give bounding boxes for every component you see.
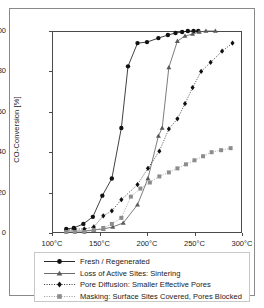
data-point [201,154,205,158]
data-point [91,215,95,219]
data-point [145,176,150,180]
y-tick-label: 0 [0,228,6,237]
x-tick-label: 200°C [127,239,167,248]
legend-label: Fresh / Regenerated [80,257,150,266]
series-line [66,148,230,232]
legend-label: Pore Diffusion: Smaller Effective Pores [80,280,211,289]
data-point [191,85,195,90]
data-point [82,230,86,234]
data-point [135,202,140,206]
y-tick-mark [49,152,52,153]
data-point [110,208,114,213]
y-axis-title: CO-Conversion [%] [12,60,21,200]
data-point [119,126,123,130]
x-tick-label: 100°C [32,239,72,248]
x-tick-mark [242,233,243,236]
data-point [57,282,62,288]
series-3 [64,146,232,234]
series-2 [64,40,234,232]
series-0 [64,29,200,231]
series-1 [64,29,218,233]
legend-circle-icon [43,256,76,267]
data-point [199,69,203,74]
legend-square-icon [43,291,76,302]
y-tick-label: 100 [0,26,6,35]
data-point [157,149,161,154]
series-line [66,31,215,231]
data-point [156,36,160,40]
data-point [138,187,142,191]
data-point [92,228,96,232]
figure-container: CO-Conversion [%] 020406080100 100°C150°… [0,0,264,308]
data-point [229,146,233,150]
data-point [110,176,114,180]
data-point [148,181,152,185]
x-tick-label: 300°C [222,239,262,248]
data-point [135,41,139,45]
data-point [145,40,149,44]
data-point [191,29,195,33]
y-tick-label: 80 [0,66,6,75]
figure-border: CO-Conversion [%] 020406080100 100°C150°… [9,8,255,296]
chart-canvas [52,31,242,233]
data-point [126,64,130,68]
data-point [110,222,114,226]
y-tick-mark [49,71,52,72]
legend-item-1[interactable]: Loss of Active Sites: Sintering [35,268,249,280]
data-point [156,134,161,138]
data-point [81,222,85,226]
x-tick-mark [195,233,196,236]
data-point [64,230,68,234]
x-tick-label: 250°C [175,239,215,248]
plot-area: CO-Conversion [%] 020406080100 100°C150°… [52,31,242,233]
data-point [57,294,62,299]
legend-triangle-icon [43,268,76,279]
legend-item-3[interactable]: Masking: Surface Sites Covered, Pores Bl… [35,291,249,303]
data-point [230,40,234,45]
x-tick-mark [100,233,101,236]
data-point [219,148,223,152]
y-tick-label: 20 [0,188,6,197]
data-point [186,29,190,33]
data-point [175,39,180,43]
data-point [180,30,184,34]
data-point [160,125,165,129]
data-point [119,216,123,220]
x-tick-mark [147,233,148,236]
data-point [175,116,179,121]
data-point [183,101,187,106]
data-point [157,174,161,178]
series-line [66,43,232,230]
y-tick-label: 60 [0,107,6,116]
y-tick-mark [49,112,52,113]
data-point [57,259,62,264]
data-point [193,158,197,162]
data-point [167,170,171,174]
data-point [101,226,105,230]
y-tick-label: 40 [0,147,6,156]
data-point [129,195,133,199]
series-line [66,31,198,229]
chart-legend: Fresh / RegeneratedLoss of Active Sites:… [34,252,250,302]
data-point [166,65,171,69]
y-tick-mark [49,193,52,194]
legend-label: Masking: Surface Sites Covered, Pores Bl… [80,292,242,301]
data-point [73,230,77,234]
x-tick-label: 150°C [80,239,120,248]
data-point [166,33,170,37]
data-point [210,150,214,154]
data-point [173,31,177,35]
data-point [119,197,123,202]
data-point [184,162,188,166]
data-point [175,166,179,170]
legend-diamond-icon [43,279,76,290]
x-tick-mark [52,233,53,236]
data-point [135,182,139,187]
legend-item-2[interactable]: Pore Diffusion: Smaller Effective Pores [35,279,249,291]
data-point [100,193,104,197]
legend-item-0[interactable]: Fresh / Regenerated [35,256,249,268]
y-tick-mark [49,31,52,32]
data-point [220,49,224,54]
legend-label: Loss of Active Sites: Sintering [80,269,180,278]
